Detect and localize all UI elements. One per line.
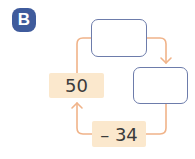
right-empty-box[interactable] <box>133 67 188 104</box>
start-value-box: 50 <box>49 73 104 98</box>
operation-box: – 34 <box>92 121 146 147</box>
arrow-operation-to-start <box>77 103 92 134</box>
top-empty-box[interactable] <box>91 19 147 57</box>
arrow-start-to-top <box>77 38 91 73</box>
arrow-right-to-operation <box>146 104 166 134</box>
